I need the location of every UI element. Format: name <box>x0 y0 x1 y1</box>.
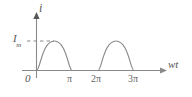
waveform-figure: i wt Im 0 π 2π 3π <box>0 0 192 97</box>
amplitude-label: Im <box>13 33 22 47</box>
waveform-arch-first <box>37 41 73 71</box>
origin-label: 0 <box>25 73 31 84</box>
x-tick-label-2pi: 2π <box>91 74 101 84</box>
waveform-arch-second <box>98 41 134 71</box>
x-axis-arrowhead <box>160 67 167 73</box>
y-axis-label: i <box>39 2 42 14</box>
x-tick-label-pi: π <box>67 74 72 84</box>
amplitude-label-subscript: m <box>16 41 21 49</box>
x-tick-label-3pi: 3π <box>128 74 138 84</box>
x-axis-label: wt <box>168 59 178 70</box>
